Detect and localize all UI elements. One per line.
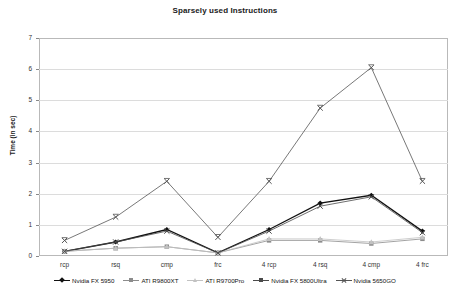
legend-marker-cross-icon <box>253 277 269 284</box>
data-point-x <box>420 178 426 183</box>
legend-item-0[interactable]: Nvidia FX 5950 <box>54 277 114 284</box>
data-point-x <box>113 214 119 219</box>
data-point-x <box>317 105 323 110</box>
legend-item-2[interactable]: ATI R9700Pro <box>187 277 244 284</box>
legend-marker-triangle-icon <box>187 277 203 284</box>
series-layer <box>0 0 450 300</box>
data-point-x <box>62 238 68 243</box>
data-point-x <box>164 178 170 183</box>
legend-label: Nvidia 5650GO <box>354 277 396 284</box>
legend-label: Nvidia FX 5950 <box>72 277 114 284</box>
data-point-x <box>369 65 375 70</box>
legend-marker-diamond-icon <box>54 277 70 284</box>
legend-item-4[interactable]: Nvidia 5650GO <box>336 277 396 284</box>
legend-label: ATI R9700Pro <box>205 277 244 284</box>
legend-marker-square-icon <box>123 277 139 284</box>
legend-label: Nvidia FX 5800Ultra <box>271 277 326 284</box>
series-4 <box>62 65 425 243</box>
data-point-x <box>215 235 221 240</box>
legend-item-1[interactable]: ATI R9800XT <box>123 277 178 284</box>
legend-marker-x-icon <box>336 277 352 284</box>
legend-label: ATI R9800XT <box>141 277 178 284</box>
chart-legend: Nvidia FX 5950ATI R9800XTATI R9700ProNvi… <box>0 277 450 284</box>
legend-item-3[interactable]: Nvidia FX 5800Ultra <box>253 277 326 284</box>
chart-container: Sparsely used Instructions Time (in sec)… <box>0 0 450 300</box>
data-point-x <box>266 178 272 183</box>
